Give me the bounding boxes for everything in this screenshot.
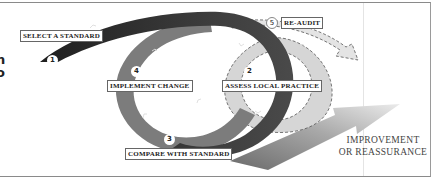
step-3-number: 3 — [164, 134, 175, 145]
outcome-line-1: IMPROVEMENT — [335, 134, 431, 146]
outcome-text: IMPROVEMENT OR REASSURANCE — [335, 134, 431, 158]
chevron-icon — [90, 25, 96, 28]
chevron-icon — [143, 114, 147, 118]
chevron-icon — [239, 43, 244, 46]
step-1-label: SELECT A STANDARD — [20, 30, 103, 42]
outcome-line-2: OR REASSURANCE — [335, 146, 431, 158]
step-1-number: 1 — [47, 55, 58, 66]
step-5-number: 5 — [266, 17, 278, 29]
step-4-number: 4 — [131, 66, 142, 77]
step-2-number: 2 — [244, 66, 255, 77]
step-4-label: IMPLEMENT CHANGE — [107, 80, 193, 92]
chevron-icon — [255, 111, 261, 113]
step-3-label: COMPARE WITH STANDARD — [125, 148, 232, 160]
chevron-icon — [197, 99, 201, 103]
step-2-label: ASSESS LOCAL PRACTICE — [222, 80, 322, 92]
step-5-label: RE-AUDIT — [281, 17, 323, 29]
